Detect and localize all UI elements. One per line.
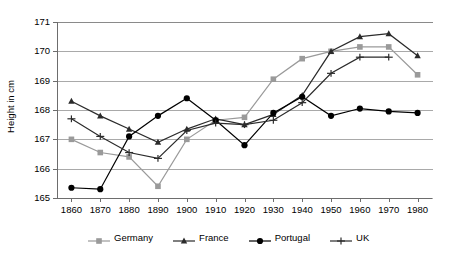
y-tick-label: 170 [20,46,50,55]
x-tick-mark [389,198,390,202]
x-tick-mark [71,198,72,202]
legend-item-france[interactable]: France [173,232,229,243]
chart-legend: GermanyFrancePortugalUK [88,228,378,246]
plot-area [57,22,432,198]
y-tick-label: 171 [20,17,50,26]
legend-label: UK [356,232,369,243]
y-axis-title: Height in cm [2,46,18,166]
y-tick-label: 166 [20,164,50,173]
y-tick-label: 168 [20,105,50,114]
x-tick-mark [216,198,217,202]
legend-key-square-icon [88,232,110,242]
data-point-square [96,238,102,244]
gridline [58,139,433,140]
legend-item-germany[interactable]: Germany [88,232,153,243]
gridline [58,51,433,52]
y-tick-label: 169 [20,76,50,85]
legend-label: Portugal [275,232,310,243]
gridline [58,22,433,23]
x-tick-mark [187,198,188,202]
legend-item-portugal[interactable]: Portugal [249,232,310,243]
x-tick-mark [418,198,419,202]
x-tick-mark [331,198,332,202]
y-tick-label: 167 [20,134,50,143]
x-tick-mark [245,198,246,202]
legend-key-triangle-icon [173,232,195,242]
legend-key-circle-icon [249,232,271,242]
x-tick-mark [360,198,361,202]
legend-item-uk[interactable]: UK [330,232,369,243]
gridline [58,169,433,170]
legend-label: France [199,232,229,243]
x-tick-mark [100,198,101,202]
y-tick-label: 165 [20,193,50,202]
legend-key-plus-icon [330,232,352,242]
gridline [58,110,433,111]
x-tick-mark [273,198,274,202]
height-line-chart: Height in cm 165166167168169170171 18601… [0,0,450,254]
x-tick-mark [158,198,159,202]
legend-label: Germany [114,232,153,243]
gridline [58,81,433,82]
x-tick-mark [302,198,303,202]
x-tick-mark [129,198,130,202]
x-tick-label: 1980 [398,204,438,215]
data-point-circle [257,238,263,244]
data-point-plus [337,238,345,245]
